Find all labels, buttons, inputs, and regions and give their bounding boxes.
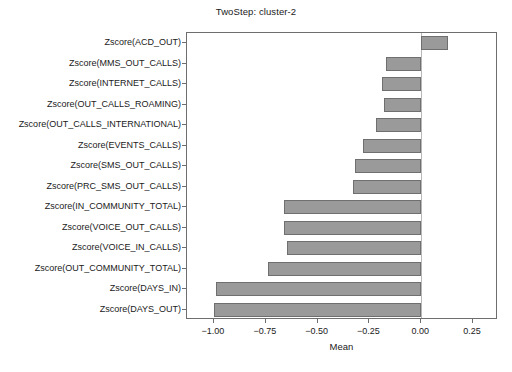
x-axis-tick — [420, 319, 421, 323]
bar — [384, 98, 421, 112]
y-axis-tick — [182, 124, 186, 125]
y-axis-tick-label: Zscore(ACD_OUT) — [6, 37, 186, 47]
bar — [216, 282, 421, 296]
y-axis-tick-label: Zscore(OUT_COMMUNITY_TOTAL) — [6, 263, 186, 273]
y-axis-tick-label: Zscore(PRC_SMS_OUT_CALLS) — [6, 181, 186, 191]
x-axis-tick-label: 0.00 — [397, 326, 443, 337]
x-axis-tick-label: −0.25 — [345, 326, 391, 337]
x-axis-tick-label: 0.25 — [449, 326, 495, 337]
y-axis-tick-label: Zscore(IN_COMMUNITY_TOTAL) — [6, 201, 186, 211]
y-axis-tick — [182, 83, 186, 84]
y-axis-tick — [182, 309, 186, 310]
bar — [386, 57, 421, 71]
y-axis-tick — [182, 42, 186, 43]
x-axis-tick — [368, 319, 369, 323]
bar — [363, 139, 421, 153]
y-axis-tick — [182, 268, 186, 269]
bar — [376, 118, 422, 132]
bar — [214, 303, 421, 317]
y-axis-tick — [182, 186, 186, 187]
x-axis-tick — [265, 319, 266, 323]
y-axis-tick — [182, 165, 186, 166]
bar — [353, 180, 421, 194]
y-axis-tick — [182, 63, 186, 64]
bar — [421, 36, 448, 50]
y-axis-tick-label: Zscore(DAYS_OUT) — [6, 304, 186, 314]
bar — [287, 241, 422, 255]
x-axis-tick-label: −1.00 — [190, 326, 236, 337]
y-axis-tick — [182, 145, 186, 146]
bar — [268, 262, 421, 276]
y-axis-tick-label: Zscore(EVENTS_CALLS) — [6, 140, 186, 150]
x-axis-tick — [472, 319, 473, 323]
plot-inner — [187, 33, 496, 318]
bar — [284, 221, 421, 235]
x-axis-title: Mean — [186, 341, 497, 352]
x-axis-tick-label: −0.50 — [294, 326, 340, 337]
bar — [284, 200, 421, 214]
y-axis-tick — [182, 227, 186, 228]
chart-container: TwoStep: cluster-2 Mean Zscore(ACD_OUT)Z… — [0, 0, 512, 372]
y-axis-tick-label: Zscore(INTERNET_CALLS) — [6, 78, 186, 88]
x-axis-tick — [317, 319, 318, 323]
y-axis-tick-label: Zscore(OUT_CALLS_INTERNATIONAL) — [6, 119, 186, 129]
bar — [382, 77, 421, 91]
y-axis-tick-label: Zscore(SMS_OUT_CALLS) — [6, 160, 186, 170]
y-axis-tick — [182, 247, 186, 248]
plot-area — [186, 32, 497, 319]
y-axis-tick-label: Zscore(VOICE_OUT_CALLS) — [6, 222, 186, 232]
y-axis-tick-label: Zscore(OUT_CALLS_ROAMING) — [6, 99, 186, 109]
y-axis-tick-label: Zscore(DAYS_IN) — [6, 283, 186, 293]
x-axis-tick-label: −0.75 — [242, 326, 288, 337]
y-axis-tick — [182, 104, 186, 105]
bar — [355, 159, 421, 173]
y-axis-tick-label: Zscore(MMS_OUT_CALLS) — [6, 58, 186, 68]
y-axis-tick — [182, 206, 186, 207]
y-axis-tick — [182, 288, 186, 289]
chart-title: TwoStep: cluster-2 — [0, 6, 512, 17]
zero-reference-line — [421, 33, 422, 318]
x-axis-tick — [213, 319, 214, 323]
y-axis-tick-label: Zscore(VOICE_IN_CALLS) — [6, 242, 186, 252]
